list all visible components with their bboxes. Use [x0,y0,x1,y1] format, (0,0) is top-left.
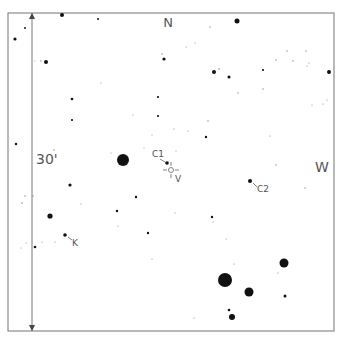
star [162,57,165,60]
star [229,314,235,320]
star [32,195,33,196]
comparison-star-label: C1 [152,149,164,159]
star [71,119,73,121]
star [161,53,162,54]
star [262,69,264,71]
star [71,98,74,101]
star [194,42,195,43]
star [212,221,213,222]
star [280,259,289,268]
star [305,50,306,51]
star [63,233,67,237]
star [284,295,287,298]
star [54,241,55,242]
star [44,60,48,64]
star [116,210,118,212]
star [245,288,254,297]
star [174,212,175,213]
chart-frame [8,13,334,331]
star [187,130,188,131]
star [218,273,232,287]
star [68,183,71,186]
star [41,241,42,242]
target-circle-icon [169,168,174,173]
star [225,238,226,239]
star [207,120,208,121]
star [24,195,25,196]
star [248,179,252,183]
target-label: V [175,174,182,184]
star [80,203,81,204]
star [237,92,238,93]
star-field [13,13,331,320]
star [306,65,307,66]
scale-bar: 30' [29,13,58,331]
star [147,232,149,234]
star [176,151,177,152]
star [60,13,64,17]
star [110,152,111,153]
comparison-star-c2: C2 [248,179,269,194]
star [292,60,293,61]
north-label: N [163,15,173,30]
arrow-down-icon [29,325,35,331]
finder-chart: 30' N W C1C2K V [0,0,345,340]
arrow-up-icon [29,13,35,19]
star [304,187,305,188]
star [35,61,36,62]
west-label: W [315,159,329,175]
star [40,60,41,61]
star [13,37,16,40]
star [228,309,231,312]
star [21,202,23,204]
star [117,154,129,166]
star [47,213,52,218]
star [21,248,22,249]
star [97,18,99,20]
star [286,50,287,51]
star [233,263,234,264]
comparison-star-label: C2 [257,184,269,194]
star [322,103,323,104]
star [275,164,276,165]
star [277,272,278,273]
star [24,27,26,29]
star [26,243,27,244]
star [218,68,220,70]
star [34,246,37,249]
star [53,149,54,150]
star [144,148,145,149]
star [275,59,276,60]
target-variable-star: V [163,162,182,184]
star [308,62,309,63]
star [157,115,159,117]
comparison-star-label: K [72,238,79,248]
star [132,114,133,115]
leader-line [160,159,165,162]
star [193,317,194,318]
star [209,26,210,27]
scale-bar-label: 30' [36,151,58,167]
star [235,19,240,24]
star [262,88,263,89]
comparison-stars: C1C2K [63,149,269,248]
star [117,225,118,226]
star [152,135,153,136]
star [100,82,101,83]
star [211,216,213,218]
star [212,70,216,74]
star [157,96,159,98]
star [269,135,270,136]
star [185,46,186,47]
star [135,196,137,198]
star [151,258,152,259]
comparison-star-c1: C1 [152,149,169,165]
star [15,143,17,145]
star [165,161,169,165]
star [205,136,207,138]
star [327,70,331,74]
star [228,76,231,79]
star [326,99,327,100]
star [311,104,312,105]
star [173,128,174,129]
